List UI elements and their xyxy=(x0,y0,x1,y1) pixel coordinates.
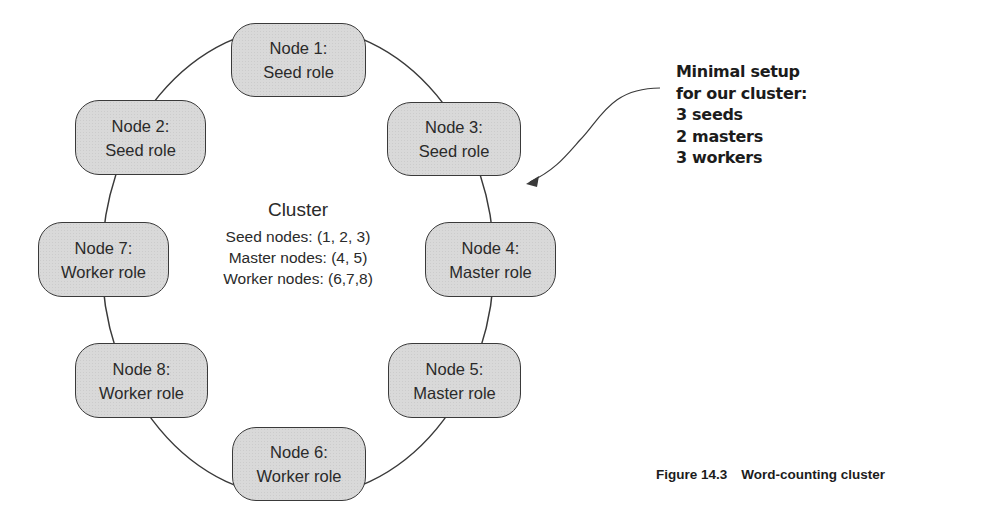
node-role: Worker role xyxy=(257,464,342,488)
cluster-summary: Cluster Seed nodes: (1, 2, 3) Master nod… xyxy=(198,198,398,289)
annotation-arrow-line xyxy=(530,88,660,182)
node-role: Seed role xyxy=(419,139,490,163)
node-label: Node 5: xyxy=(426,357,484,381)
annotation-line: for our cluster: xyxy=(676,83,807,105)
node-label: Node 7: xyxy=(75,236,133,260)
figure-caption: Figure 14.3Word-counting cluster xyxy=(656,467,885,482)
node-5: Node 5: Master role xyxy=(388,343,521,418)
node-4: Node 4: Master role xyxy=(425,222,556,297)
node-label: Node 2: xyxy=(112,114,170,138)
annotation-line: 3 workers xyxy=(676,147,807,169)
worker-nodes-line: Worker nodes: (6,7,8) xyxy=(198,268,398,289)
node-6: Node 6: Worker role xyxy=(232,427,366,501)
caption-label: Figure 14.3 xyxy=(656,467,727,482)
caption-title: Word-counting cluster xyxy=(741,467,885,482)
node-8: Node 8: Worker role xyxy=(75,343,208,418)
node-role: Master role xyxy=(413,381,496,405)
node-role: Master role xyxy=(449,260,532,284)
node-label: Node 6: xyxy=(270,440,328,464)
node-role: Seed role xyxy=(263,60,334,84)
annotation-line: 3 seeds xyxy=(676,104,807,126)
annotation-line: Minimal setup xyxy=(676,61,807,83)
node-role: Seed role xyxy=(105,138,176,162)
node-label: Node 3: xyxy=(425,115,483,139)
node-role: Worker role xyxy=(99,381,184,405)
master-nodes-line: Master nodes: (4, 5) xyxy=(198,247,398,268)
seed-nodes-line: Seed nodes: (1, 2, 3) xyxy=(198,226,398,247)
cluster-title: Cluster xyxy=(198,198,398,222)
node-1: Node 1: Seed role xyxy=(231,23,366,97)
setup-annotation: Minimal setup for our cluster: 3 seeds 2… xyxy=(676,61,807,169)
node-role: Worker role xyxy=(61,260,146,284)
annotation-arrowhead-icon xyxy=(526,176,539,187)
node-3: Node 3: Seed role xyxy=(387,102,521,176)
node-label: Node 8: xyxy=(113,357,171,381)
figure: Node 1: Seed role Node 2: Seed role Node… xyxy=(0,0,981,523)
annotation-line: 2 masters xyxy=(676,126,807,148)
node-2: Node 2: Seed role xyxy=(75,100,206,175)
node-label: Node 1: xyxy=(270,36,328,60)
node-label: Node 4: xyxy=(462,236,520,260)
node-7: Node 7: Worker role xyxy=(38,222,169,297)
